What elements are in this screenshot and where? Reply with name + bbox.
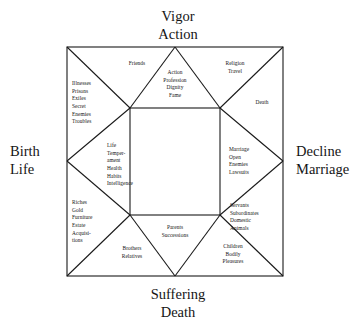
house-2-line-3: Estate [72,222,93,230]
house-10-line-2: Dignity [146,84,204,92]
cardinal-label-right: Decline Marriage [296,143,349,178]
house-label-life-temperament: Life Temper- ament Health Habits Intelli… [107,142,133,188]
house-label-children-pleasures: Children Bodily Pleasures [201,243,265,266]
house-6-line-1: Subordinates [230,210,259,218]
house-1-line-0: Life [107,142,133,150]
cardinal-right-line-2: Marriage [296,161,349,179]
house-10-line-3: Fame [146,92,204,100]
inner-square [130,108,220,215]
house-2-line-2: Furniture [72,214,93,222]
house-label-illnesses: Illnesses Prisons Exiles Secret Enemies … [72,80,91,126]
house-2-line-0: Riches [72,199,93,207]
cardinal-top-line-1: Vigor [0,8,356,26]
cardinal-left-line-2: Life [10,161,40,179]
house-1-line-4: Habits [107,173,133,181]
house-6-line-2: Domestic [230,217,259,225]
astrological-house-diagram: Vigor Action Suffering Death Birth Life … [0,0,356,327]
house-11-line-0: Friends [104,60,170,68]
cardinal-left-line-1: Birth [10,143,40,161]
house-12-line-3: Secret [72,103,91,111]
house-10-line-1: Profession [146,77,204,85]
house-label-parents-successions: Parents Successions [144,224,206,239]
house-2-line-5: tions [72,237,93,245]
house-12-line-4: Enemies [72,111,91,119]
house-figure: Friends Illnesses Prisons Exiles Secret … [64,44,286,279]
house-4-line-0: Parents [144,224,206,232]
cardinal-top-line-2: Action [0,26,356,44]
house-7-line-2: Enemies [229,161,249,169]
house-6-line-0: Servants [230,202,259,210]
house-10-line-0: Action [146,69,204,77]
house-5-line-0: Children [201,243,265,251]
house-label-religion-travel: Religion Travel [204,60,266,75]
house-5-line-2: Pleasures [201,258,265,266]
house-label-marriage-enemies: Marriage Open Enemies Lawsuits [229,146,249,177]
house-2-line-1: Gold [72,207,93,215]
house-7-line-1: Open [229,154,249,162]
cardinal-label-left: Birth Life [10,143,40,178]
house-9-line-1: Travel [204,68,266,76]
cardinal-bottom-line-2: Death [0,304,356,322]
house-1-line-1: Temper- [107,150,133,158]
house-5-line-1: Bodily [201,251,265,259]
house-1-line-3: Health [107,165,133,173]
cardinal-bottom-line-1: Suffering [0,286,356,304]
house-7-line-0: Marriage [229,146,249,154]
house-label-action-profession: Action Profession Dignity Fame [146,69,204,100]
house-label-brothers-relatives: Brothers Relatives [100,245,164,260]
cardinal-right-line-1: Decline [296,143,349,161]
cardinal-label-bottom: Suffering Death [0,286,356,321]
house-8-line-0: Death [242,99,282,107]
house-3-line-1: Relatives [100,253,164,261]
house-6-line-3: Animals [230,225,259,233]
house-2-line-4: Acquisi- [72,230,93,238]
house-label-riches-gold: Riches Gold Furniture Estate Acquisi- ti… [72,199,93,245]
house-12-line-1: Prisons [72,88,91,96]
house-9-line-0: Religion [204,60,266,68]
house-1-line-5: Intelligence [107,180,133,188]
house-7-line-3: Lawsuits [229,169,249,177]
house-label-friends: Friends [104,60,170,68]
house-12-line-2: Exiles [72,95,91,103]
house-4-line-1: Successions [144,232,206,240]
house-3-line-0: Brothers [100,245,164,253]
house-label-servants-subordinates: Servants Subordinates Domestic Animals [230,202,259,233]
house-12-line-0: Illnesses [72,80,91,88]
house-1-line-2: ament [107,157,133,165]
house-label-death: Death [242,99,282,107]
cardinal-label-top: Vigor Action [0,8,356,43]
house-12-line-5: Troubles [72,118,91,126]
